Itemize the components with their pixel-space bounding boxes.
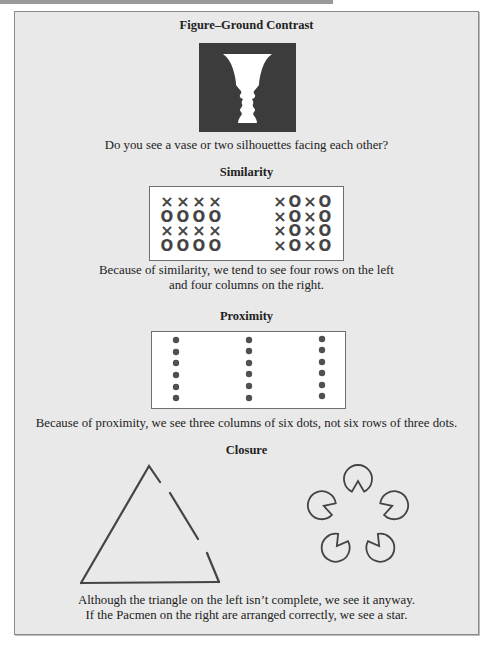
closure-caption-line1: Although the triangle on the left isn’t … [15,593,478,608]
top-strip [0,0,333,4]
gestalt-principles-box: Figure–Ground Contrast Do you see a vase… [14,11,479,635]
pacmen-star [15,12,478,634]
closure-caption-line2: If the Pacmen on the right are arranged … [15,608,478,623]
